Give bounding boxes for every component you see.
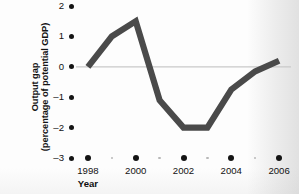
y-tick-1: 1 (40, 30, 76, 42)
x-tick-dot-2006 (276, 155, 282, 161)
y-tick-neg2: –2 (40, 122, 76, 134)
y-tick-dot (69, 95, 74, 100)
x-tick-dot-2004 (228, 155, 234, 161)
y-tick-2: 2 (40, 0, 76, 12)
y-tick-dot (69, 156, 74, 161)
x-tick-dot-minor (158, 157, 161, 160)
x-tick-dot-minor (111, 157, 114, 160)
x-tick-dot-2002 (181, 155, 187, 161)
y-tick-label: –2 (53, 122, 64, 134)
x-tick-label-2006: 2006 (259, 165, 299, 176)
chart-figure: Output gap (percentage of potential GDP)… (0, 0, 299, 194)
y-tick-label: 0 (59, 61, 64, 73)
y-tick-dot (69, 4, 74, 9)
output-gap-line (88, 21, 279, 127)
y-tick-label: –3 (53, 152, 64, 164)
y-tick-dot (69, 64, 74, 69)
y-tick-dot (69, 34, 74, 39)
y-tick-neg3: –3 (40, 152, 76, 164)
y-tick-dot (69, 125, 74, 130)
x-tick-label-1998: 1998 (68, 165, 108, 176)
y-axis-title: Output gap (percentage of potential GDP) (20, 2, 60, 172)
y-tick-label: –1 (53, 91, 64, 103)
x-axis-title: Year (68, 178, 108, 189)
y-tick-label: 1 (59, 30, 64, 42)
y-tick-0: 0 (40, 61, 76, 73)
x-tick-label-2004: 2004 (211, 165, 251, 176)
x-tick-dot-2000 (133, 155, 139, 161)
x-tick-dot-1998 (85, 155, 91, 161)
y-tick-neg1: –1 (40, 91, 76, 103)
y-tick-label: 2 (59, 0, 64, 12)
plot-area (76, 6, 291, 158)
x-tick-label-2002: 2002 (164, 165, 204, 176)
line-chart-svg (76, 6, 291, 158)
x-tick-label-2000: 2000 (116, 165, 156, 176)
x-tick-dot-minor (206, 157, 209, 160)
y-axis-title-line1: Output gap (30, 63, 40, 112)
